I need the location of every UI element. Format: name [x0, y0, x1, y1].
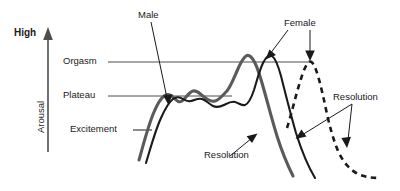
female-alternate-dashed-curve	[287, 62, 380, 178]
y-axis-group	[43, 27, 53, 152]
stage-label-orgasm: Orgasm	[63, 56, 97, 66]
male-leader-line	[151, 22, 167, 98]
female-arrowhead-dashed-icon	[305, 51, 315, 62]
resolution-right-leader-line-b	[348, 104, 352, 140]
resolution-right-annotation-leaders	[296, 104, 353, 148]
axis-high-label: High	[14, 28, 36, 38]
y-axis-arrowhead-icon	[43, 27, 53, 40]
male-annotation-leader	[151, 22, 173, 105]
resolution-right-arrowhead-b-icon	[341, 137, 351, 148]
female-leader-line-solid	[270, 30, 288, 54]
curve-label-male: Male	[138, 10, 159, 20]
stage-label-plateau: Plateau	[63, 90, 95, 100]
curve-label-resolution-right: Resolution	[333, 92, 378, 102]
curve-label-resolution-left: Resolution	[204, 150, 249, 160]
curve-label-female: Female	[284, 18, 316, 28]
diagram-canvas: High Arousal Orgasm Plateau Excitement M…	[0, 0, 400, 191]
stage-label-excitement: Excitement	[70, 124, 117, 134]
axis-arousal-label: Arousal	[36, 101, 46, 133]
